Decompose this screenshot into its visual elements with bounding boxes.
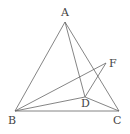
label-B: B <box>8 114 16 127</box>
geometry-diagram: A B C D F <box>0 0 130 134</box>
segment-DC <box>85 97 119 111</box>
label-F: F <box>109 57 117 70</box>
label-A: A <box>60 6 70 19</box>
label-D: D <box>81 97 90 110</box>
segment-BD <box>15 97 85 111</box>
segments <box>15 22 119 111</box>
segment-AD <box>65 22 85 97</box>
label-C: C <box>113 114 121 127</box>
